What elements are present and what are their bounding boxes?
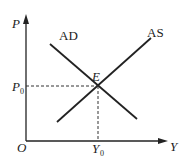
price-subscript: 0 — [20, 87, 24, 96]
price-label: P — [11, 79, 20, 94]
equilibrium-label: E — [91, 69, 100, 84]
y-axis-label: P — [11, 16, 20, 31]
as-curve — [57, 38, 151, 122]
x-axis-label: Y — [170, 139, 179, 154]
y-axis-arrow-icon — [23, 14, 29, 24]
x-axis-arrow-icon — [158, 138, 168, 144]
ad-as-diagram: P Y O AD AS E P 0 Y 0 — [0, 0, 179, 164]
as-label: AS — [147, 25, 164, 40]
origin-label: O — [17, 140, 27, 155]
ad-label: AD — [59, 28, 78, 43]
output-subscript: 0 — [100, 149, 104, 158]
